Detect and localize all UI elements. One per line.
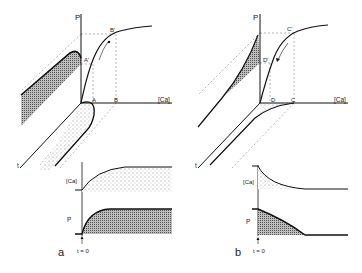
trace-label-ca: [Ca] xyxy=(66,178,77,184)
axis-label-p: P xyxy=(253,13,258,22)
p-ca-curve xyxy=(81,26,152,103)
p-trace-fill xyxy=(258,209,305,235)
trace-label-p: P xyxy=(246,218,250,225)
panel-b-3d-plot: P [Ca] t D C D' C' xyxy=(195,13,348,169)
point-label-B-prime: B' xyxy=(110,27,115,33)
t-axis xyxy=(198,103,260,168)
axis-label-ca: [Ca] xyxy=(334,96,346,104)
point-label-D: D xyxy=(271,97,276,103)
trace-label-ca: [Ca] xyxy=(243,179,254,185)
point-label-B: B xyxy=(114,97,118,103)
projection-lines xyxy=(198,33,294,168)
ca-trace-fill xyxy=(258,166,305,189)
ca-time-trace-dotted xyxy=(40,102,94,170)
axis-label-t: t xyxy=(195,162,197,169)
panel-label-a: a xyxy=(58,246,65,258)
panel-b-time-traces: [Ca] P t = 0 b xyxy=(235,165,348,258)
axis-label-p: P xyxy=(75,13,80,22)
point-label-D-prime: D' xyxy=(263,57,268,63)
ca-time-trace-dotted xyxy=(255,103,294,118)
ca-trace-fill xyxy=(82,167,172,192)
axis-label-t: t xyxy=(17,162,19,169)
time-zero-label: t = 0 xyxy=(77,248,90,254)
point-label-A-prime: A' xyxy=(84,57,89,63)
figure-canvas: P [Ca] t A B A' B' [Ca] P t = 0 a xyxy=(0,0,362,273)
axis-label-ca: [Ca] xyxy=(158,96,170,104)
point-label-A: A xyxy=(92,97,96,103)
point-label-C: C xyxy=(291,97,296,103)
time-zero-label: t = 0 xyxy=(253,248,266,254)
panel-label-b: b xyxy=(235,246,241,258)
panel-a-time-traces: [Ca] P t = 0 a xyxy=(58,162,172,258)
point-label-C-prime: C' xyxy=(287,26,292,32)
panel-a-3d-plot: P [Ca] t A B A' B' xyxy=(17,13,172,170)
trace-label-p: P xyxy=(67,216,71,223)
